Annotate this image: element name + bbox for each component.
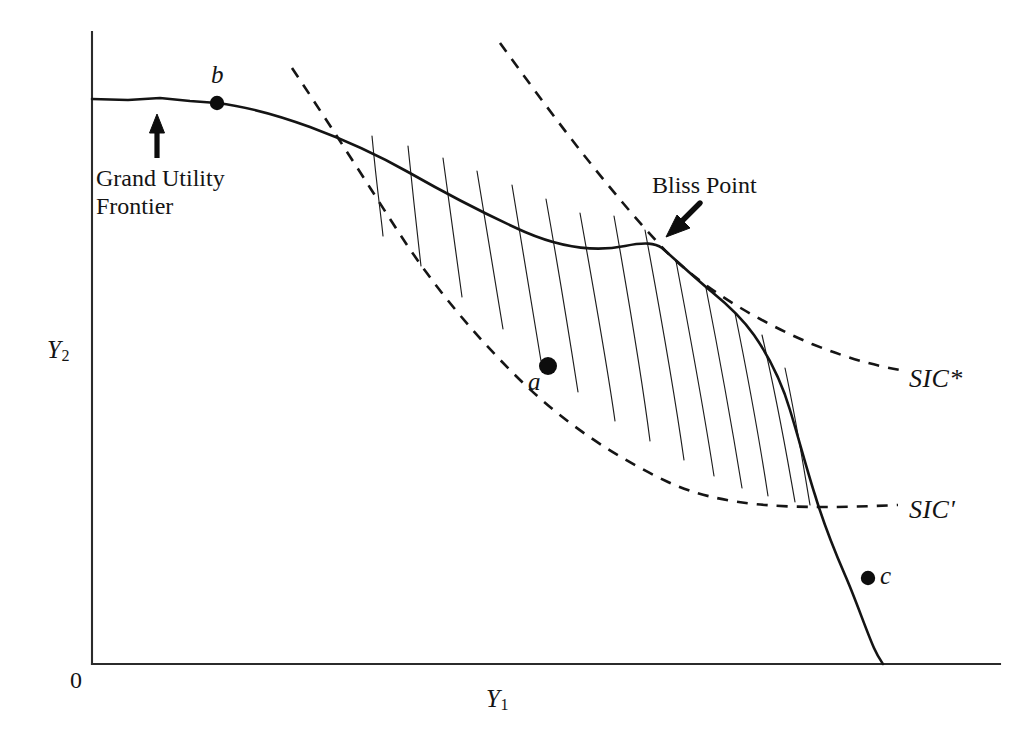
figure-root: Y2 Y1 0 b a c Grand Utility Frontier Bli… [0,0,1021,752]
hatch-line [580,213,615,421]
hatch-line [443,158,462,297]
hatch-line [645,230,684,460]
point-a-dot [539,357,557,375]
hatch-line [372,136,383,236]
point-c-dot [861,571,875,585]
sic-prime-curve [292,68,898,507]
bliss-point-arrow-icon [666,203,700,237]
grand-utility-frontier-annotation: Grand Utility Frontier [96,164,225,221]
grand-utility-frontier-line-1: Grand Utility [96,164,225,192]
bliss-point-annotation: Bliss Point [652,171,757,199]
y-axis-label: Y2 [47,335,69,366]
sic-star-label: SIC* [909,364,963,395]
grand-utility-frontier-arrow-icon [150,114,165,158]
y-axis-label-sub: 2 [61,347,70,364]
origin-label: 0 [70,666,82,694]
point-b-dot [210,96,224,110]
hatch-line [408,146,421,266]
hatch-line [477,171,503,329]
x-axis-label: Y1 [486,684,508,715]
grand-utility-frontier-line-2: Frontier [96,192,225,220]
marked-points-group [210,96,875,585]
y-axis-label-main: Y [47,336,61,363]
hatch-line [762,335,795,502]
axes-group [92,32,1000,664]
sic-prime-label: SIC' [909,495,955,526]
point-label-b: b [211,60,224,90]
welfare-diagram-svg [0,0,1021,752]
x-axis-label-main: Y [486,685,500,712]
hatch-line [512,185,541,361]
x-axis-label-sub: 1 [500,696,509,713]
point-label-c: c [880,561,891,591]
hatch-line [614,216,650,441]
point-label-a: a [528,367,541,397]
